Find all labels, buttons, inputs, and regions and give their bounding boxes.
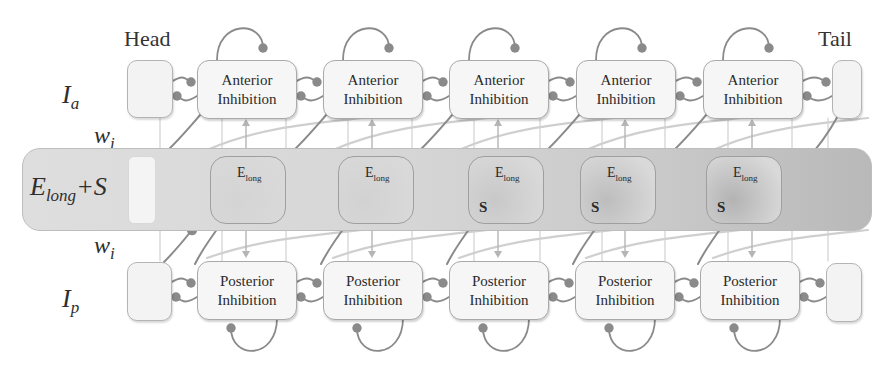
posterior-inhibition-box-3: PosteriorInhibition [449,261,549,320]
unit-label-line2: Inhibition [217,90,276,109]
unit-label-line2: Inhibition [469,90,528,109]
row-label-anterior-inhibition: Ia [62,80,79,114]
anterior-inhibition-box-2: AnteriorInhibition [323,60,423,119]
row-label-posterior-inhibition: Ip [62,284,79,318]
tail-label: Tail [818,26,852,52]
elong-label: Elong [733,165,758,183]
head-excitatory-cap [128,156,156,224]
unit-label-line2: Inhibition [469,291,528,310]
s-label: S [479,199,487,216]
excitatory-unit-3: ElongS [468,156,544,224]
tail-posterior-box [826,263,862,322]
unit-label-line2: Inhibition [596,90,655,109]
unit-label-line1: Anterior [222,71,273,90]
head-label: Head [124,26,170,52]
s-label: S [717,199,725,216]
head-posterior-box [127,262,172,321]
unit-label-line1: Posterior [723,272,777,291]
unit-label-line2: Inhibition [343,90,402,109]
excitatory-unit-2: Elong [338,156,414,224]
row-label-excitatory: Elong+S [30,172,107,206]
posterior-inhibition-box-2: PosteriorInhibition [323,261,423,320]
anterior-inhibition-box-5: AnteriorInhibition [703,60,803,119]
unit-label-line1: Anterior [348,71,399,90]
head-anterior-box [127,60,173,118]
posterior-inhibition-box-1: PosteriorInhibition [197,261,297,320]
elong-label: Elong [365,165,390,183]
elong-label: Elong [495,165,520,183]
row-label-weight-bottom: wi [94,232,115,264]
unit-label-line1: Anterior [474,71,525,90]
excitatory-unit-4: ElongS [580,156,656,224]
unit-label-line2: Inhibition [217,291,276,310]
anterior-inhibition-box-4: AnteriorInhibition [576,60,676,119]
elong-label: Elong [237,165,262,183]
unit-label-line2: Inhibition [720,291,779,310]
unit-label-line2: Inhibition [595,291,654,310]
unit-label-line1: Anterior [601,71,652,90]
unit-label-line1: Posterior [472,272,526,291]
unit-label-line1: Posterior [598,272,652,291]
unit-label-line2: Inhibition [343,291,402,310]
s-label: S [591,199,599,216]
unit-label-line2: Inhibition [723,90,782,109]
anterior-inhibition-box-3: AnteriorInhibition [449,60,549,119]
unit-label-line1: Posterior [220,272,274,291]
excitatory-unit-1: Elong [210,156,286,224]
unit-label-line1: Anterior [728,71,779,90]
unit-label-line1: Posterior [346,272,400,291]
elong-label: Elong [607,165,632,183]
posterior-inhibition-box-4: PosteriorInhibition [575,261,675,320]
anterior-inhibition-box-1: AnteriorInhibition [197,60,297,119]
tail-anterior-box [832,60,862,119]
posterior-inhibition-box-5: PosteriorInhibition [700,261,800,320]
excitatory-unit-5: ElongS [706,156,782,224]
